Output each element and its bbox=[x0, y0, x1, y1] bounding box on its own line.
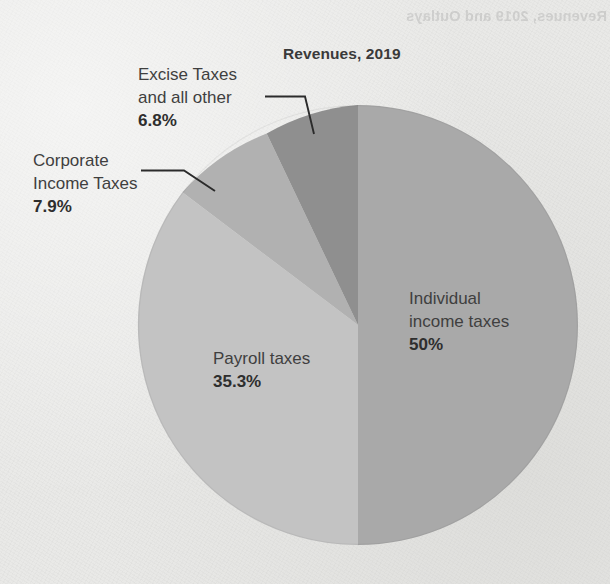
slice-label-individual-line2: income taxes bbox=[409, 311, 509, 334]
slice-label-corporate-line2: Income Taxes bbox=[33, 173, 138, 196]
revenues-pie-figure: Revenues, 2019 and Outlays Revenues, 201… bbox=[0, 0, 610, 584]
slice-label-individual-income-taxes: Individual income taxes 50% bbox=[409, 288, 509, 356]
slice-label-excise-line2: and all other bbox=[138, 87, 237, 110]
slice-value-excise: 6.8% bbox=[138, 110, 237, 133]
slice-label-excise-line1: Excise Taxes bbox=[138, 64, 237, 87]
slice-label-excise-taxes: Excise Taxes and all other 6.8% bbox=[138, 64, 237, 132]
slice-label-payroll-line1: Payroll taxes bbox=[213, 348, 310, 371]
pie-chart-graphic bbox=[0, 0, 610, 584]
slice-label-corporate-income-taxes: Corporate Income Taxes 7.9% bbox=[33, 150, 138, 218]
slice-label-payroll-taxes: Payroll taxes 35.3% bbox=[213, 348, 310, 394]
slice-value-payroll: 35.3% bbox=[213, 371, 310, 394]
slice-label-individual-line1: Individual bbox=[409, 288, 509, 311]
slice-value-individual: 50% bbox=[409, 334, 509, 357]
slice-label-corporate-line1: Corporate bbox=[33, 150, 138, 173]
chart-title: Revenues, 2019 bbox=[283, 45, 401, 63]
slice-value-corporate: 7.9% bbox=[33, 196, 138, 219]
